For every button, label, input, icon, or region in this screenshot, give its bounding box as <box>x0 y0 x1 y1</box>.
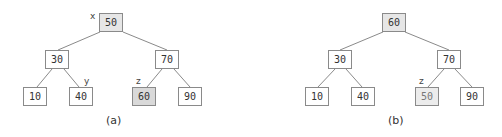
tree-node-root: 60 <box>382 13 406 32</box>
tree-node-right-right: 90 <box>460 87 484 106</box>
tree-node-left: 30 <box>45 50 69 69</box>
tree-node-left-right: 40 <box>351 87 375 106</box>
tree-node-right-left: 50 <box>415 87 439 106</box>
tree-edges <box>0 0 502 137</box>
tree-node-left: 30 <box>328 50 352 69</box>
tree-node-root: 50 <box>99 13 123 32</box>
tree-node-left-right: 40 <box>69 87 93 106</box>
node-label-z: z <box>419 76 424 86</box>
tree-node-right-right: 90 <box>178 87 202 106</box>
node-label-z: z <box>136 76 141 86</box>
panel-caption: (b) <box>388 114 404 127</box>
panel-caption: (a) <box>106 114 121 127</box>
tree-node-right: 70 <box>437 50 461 69</box>
node-label-y: y <box>84 76 89 86</box>
tree-node-left-left: 10 <box>23 87 47 106</box>
tree-node-right-left: 60 <box>132 87 156 106</box>
tree-node-right: 70 <box>155 50 179 69</box>
tree-node-left-left: 10 <box>305 87 329 106</box>
node-label-x: x <box>90 11 95 21</box>
